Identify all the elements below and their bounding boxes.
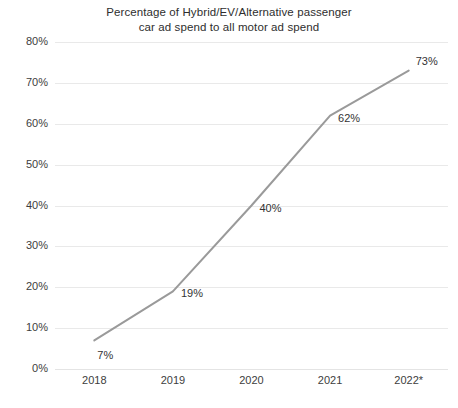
y-axis-tick-label: 10% [4,321,48,333]
data-point-label: 40% [260,202,282,214]
y-axis-tick-label: 60% [4,117,48,129]
y-axis-tick-label: 40% [4,199,48,211]
y-axis-tick-label: 70% [4,76,48,88]
gridline [55,369,448,370]
series-polyline [94,71,408,341]
x-axis-tick-label: 2019 [143,374,203,386]
y-axis-tick-label: 0% [4,362,48,374]
chart-container: Percentage of Hybrid/EV/Alternative pass… [0,0,458,408]
x-axis-tick-label: 2021 [300,374,360,386]
plot-area: 7%19%40%62%73% [55,42,448,369]
y-axis-tick-label: 30% [4,239,48,251]
line-series [55,42,448,369]
y-axis-tick-label: 80% [4,35,48,47]
y-axis-tick-label: 50% [4,158,48,170]
data-point-label: 62% [338,112,360,124]
x-axis-tick-label: 2020 [222,374,282,386]
data-point-label: 19% [181,287,203,299]
chart-title: Percentage of Hybrid/EV/Alternative pass… [0,5,458,35]
x-axis-tick-label: 2018 [64,374,124,386]
y-axis-tick-label: 20% [4,280,48,292]
data-point-label: 7% [97,349,113,361]
data-point-label: 73% [416,55,438,67]
x-axis-tick-label: 2022* [379,374,439,386]
